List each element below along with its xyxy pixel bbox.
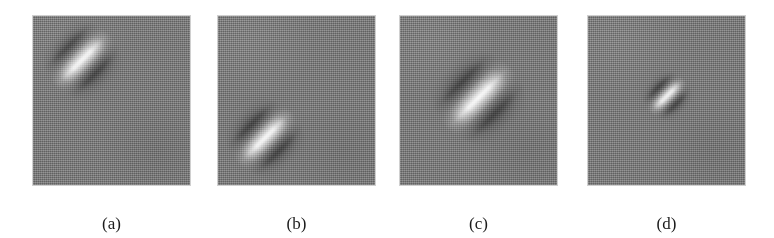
figure-panel-d: (d): [588, 16, 745, 185]
gabor-wavelet-a: [33, 16, 142, 120]
panel-caption-c: (c): [400, 213, 557, 235]
gabor-filter-bank-figure: (a) (b) (c) (d): [0, 0, 774, 238]
panel-caption-d: (d): [588, 213, 745, 235]
gabor-wavelet-c: [407, 26, 550, 169]
gabor-image-d: [588, 16, 745, 185]
panel-caption-a: (a): [33, 213, 190, 235]
gabor-image-b: [218, 16, 375, 185]
figure-panel-c: (c): [400, 16, 557, 185]
gabor-image-c: [400, 16, 557, 185]
panel-caption-b: (b): [218, 213, 375, 235]
gabor-wavelet-d: [628, 57, 704, 133]
figure-panel-b: (b): [218, 16, 375, 185]
gabor-image-a: [33, 16, 190, 185]
figure-panel-a: (a): [33, 16, 190, 185]
